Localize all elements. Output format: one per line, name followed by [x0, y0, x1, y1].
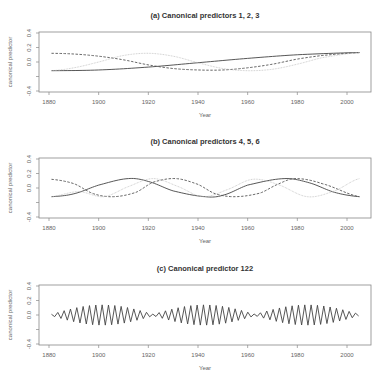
panel-c: (c) Canonical predictor 1221880190019201…	[7, 264, 371, 371]
x-tick-label: 1960	[241, 99, 255, 105]
y-tick-label: 0.0	[26, 57, 32, 66]
x-tick-label: 1880	[42, 352, 56, 358]
x-tick-label: 1920	[142, 352, 156, 358]
x-tick-label: 1960	[241, 352, 255, 358]
x-tick-label: 1960	[241, 225, 255, 231]
y-tick-label: 0.2	[26, 296, 32, 305]
y-tick-label: -0.4	[26, 211, 32, 222]
x-tick-label: 2000	[340, 352, 354, 358]
chart-canvas: (a) Canonical predictors 1, 2, 318801900…	[0, 0, 385, 382]
series-line	[51, 53, 359, 71]
x-tick-label: 1980	[291, 352, 305, 358]
x-tick-label: 1900	[92, 352, 106, 358]
series-line	[51, 179, 359, 197]
panel-a: (a) Canonical predictors 1, 2, 318801900…	[7, 11, 371, 118]
x-axis-label: Year	[199, 112, 211, 118]
x-tick-label: 2000	[340, 225, 354, 231]
x-tick-label: 1940	[191, 352, 205, 358]
y-tick-label: 0.0	[26, 310, 32, 319]
x-tick-label: 1900	[92, 225, 106, 231]
panel-b: (b) Canonical predictors 4, 5, 618801900…	[7, 137, 371, 244]
figure: (a) Canonical predictors 1, 2, 318801900…	[0, 0, 385, 382]
x-tick-label: 1920	[142, 99, 156, 105]
x-tick-label: 1900	[92, 99, 106, 105]
x-tick-label: 1980	[291, 99, 305, 105]
panel-title: (c) Canonical predictor 122	[157, 264, 253, 273]
y-tick-label: 0.0	[26, 183, 32, 192]
panel-title: (a) Canonical predictors 1, 2, 3	[151, 11, 260, 20]
y-tick-label: 0.4	[26, 28, 32, 37]
y-tick-label: 0.2	[26, 43, 32, 52]
y-axis-label: canonical predictor	[7, 37, 13, 87]
series-line	[51, 179, 359, 197]
x-tick-label: 1940	[191, 99, 205, 105]
x-axis-label: Year	[199, 365, 211, 371]
x-axis-label: Year	[199, 238, 211, 244]
y-axis-label: canonical predictor	[7, 163, 13, 213]
series-line	[51, 53, 359, 71]
y-tick-label: 0.4	[26, 154, 32, 163]
y-tick-label: 0.4	[26, 281, 32, 290]
y-axis-label: canonical predictor	[7, 290, 13, 340]
panel-title: (b) Canonical predictors 4, 5, 6	[150, 137, 259, 146]
y-tick-label: -0.4	[26, 338, 32, 349]
y-tick-label: 0.2	[26, 169, 32, 178]
x-tick-label: 1920	[142, 225, 156, 231]
x-tick-label: 1880	[42, 225, 56, 231]
x-tick-label: 1880	[42, 99, 56, 105]
series-line	[51, 178, 359, 197]
x-tick-label: 1940	[191, 225, 205, 231]
y-tick-label: -0.4	[26, 85, 32, 96]
series-line	[51, 305, 358, 325]
x-tick-label: 2000	[340, 99, 354, 105]
x-tick-label: 1980	[291, 225, 305, 231]
